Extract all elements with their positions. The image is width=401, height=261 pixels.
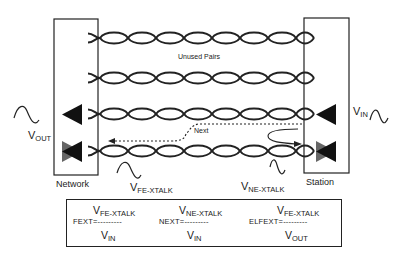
- fext-formula: VFE-XTALK FEXT=--------- VIN: [73, 200, 163, 246]
- next-numerator: VNE-XTALK: [179, 204, 222, 218]
- v-in-sub: IN: [360, 110, 368, 119]
- station-receiver-icon: [316, 141, 336, 162]
- next-denominator: VIN: [187, 229, 202, 243]
- fext-denominator: VIN: [101, 229, 116, 243]
- next-formula: VNE-XTALK NEXT=--------- VIN: [159, 200, 249, 246]
- network-receiver-icon: [62, 141, 82, 162]
- next-label: Next: [194, 127, 208, 134]
- sine-wave-icon-vne: [270, 160, 285, 174]
- loop-arrow: [268, 129, 298, 144]
- v-out-label: VOUT: [28, 129, 51, 143]
- v-in-label: VIN: [353, 105, 368, 119]
- fext-numerator: VFE-XTALK: [93, 204, 135, 218]
- v-out-sub: OUT: [35, 134, 51, 143]
- sine-wave-icon-vfe: [117, 162, 141, 178]
- elfext-equation: ELFEXT=---------: [249, 217, 307, 226]
- network-transmitter-icon: [62, 104, 82, 125]
- station-transmitter-icon: [316, 104, 336, 125]
- fext-equation: FEXT=---------: [73, 217, 122, 226]
- elfext-formula: VFE-XTALK ELFEXT=--------- VOUT: [249, 200, 341, 246]
- elfext-denominator: VOUT: [285, 229, 308, 243]
- next-arrowhead-icon: [108, 138, 115, 144]
- v-fe-xtalk-label: VFE-XTALK: [130, 181, 173, 195]
- sine-wave-icon-vout: [14, 106, 39, 123]
- v-fe-sub: FE-XTALK: [137, 186, 172, 195]
- unused-pairs-label: Unused Pairs: [178, 53, 220, 60]
- formula-box: VFE-XTALK FEXT=--------- VIN VNE-XTALK N…: [66, 199, 342, 247]
- sine-wave-icon-vin: [370, 110, 388, 123]
- network-label: Network: [56, 179, 89, 189]
- v-ne-xtalk-label: VNE-XTALK: [241, 180, 284, 194]
- v-ne-sub: NE-XTALK: [248, 185, 284, 194]
- elfext-numerator: VFE-XTALK: [277, 204, 319, 218]
- station-label: Station: [306, 177, 334, 187]
- next-equation: NEXT=---------: [159, 217, 209, 226]
